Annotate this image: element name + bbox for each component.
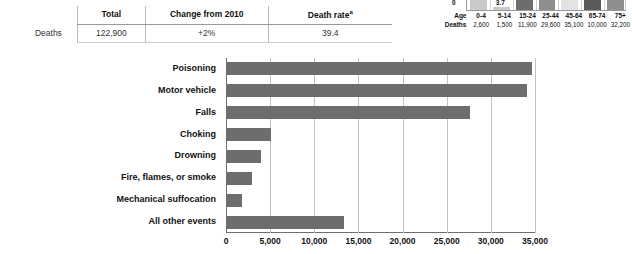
summary-value-change: +2% <box>145 24 268 42</box>
mini-chart-zero-label: 0 <box>452 0 456 6</box>
mini-bar-cell <box>513 0 536 10</box>
mini-bar <box>561 0 578 10</box>
mini-chart-deaths-value: 29,600 <box>539 20 562 29</box>
mini-chart-deaths-value: 35,100 <box>562 20 585 29</box>
mini-bar <box>516 0 533 10</box>
table-row <box>227 150 261 163</box>
category-label: Falls <box>195 108 216 117</box>
table-row <box>227 84 527 97</box>
mini-bar <box>607 0 624 10</box>
table-row <box>227 106 470 119</box>
category-label: All other events <box>148 217 216 226</box>
x-axis-tick-label: 35,000 <box>505 236 565 246</box>
mini-bar <box>470 0 487 10</box>
summary-header-total: Total <box>77 6 145 24</box>
mini-chart-age-label: 45-64 <box>562 11 585 20</box>
mini-chart-deaths-value: 10,000 <box>585 20 608 29</box>
mini-chart-gridline <box>536 0 537 10</box>
mini-chart-deaths-row: Deaths 2,6001,50011,90029,60035,10010,00… <box>440 20 632 29</box>
mini-chart-gridline <box>558 0 559 10</box>
table-row <box>227 128 271 141</box>
figure-root: Total Change from 2010 Death ratea Death… <box>0 0 632 254</box>
mini-chart-age-label: 15-24 <box>516 11 539 20</box>
mini-bar-cell <box>604 0 627 10</box>
bar-chart-plot-area <box>226 58 535 233</box>
mini-bar-cell <box>558 0 581 10</box>
table-row <box>227 62 532 75</box>
chart-gridline <box>535 58 536 233</box>
summary-table: Total Change from 2010 Death ratea Death… <box>20 6 392 43</box>
summary-value-total: 122,900 <box>77 24 145 42</box>
mini-bar <box>539 0 556 10</box>
chart-baseline <box>226 232 535 233</box>
mini-chart-deaths-value: 32,200 <box>609 20 632 29</box>
mini-chart-age-row-label: Age <box>440 11 469 20</box>
mini-chart-age-label: 65-74 <box>585 11 608 20</box>
mini-chart-age-label: 0-4 <box>469 11 492 20</box>
summary-row-label: Deaths <box>20 24 77 42</box>
age-group-mini-chart: 0 Age 0-45-1415-2425-4445-6465-7475+ Dea… <box>440 0 632 48</box>
table-row <box>227 172 252 185</box>
mini-bar-cell <box>467 0 490 10</box>
category-label: Choking <box>180 130 216 139</box>
mini-chart-deaths-value: 1,500 <box>493 20 516 29</box>
mini-chart-deaths-row-label: Deaths <box>440 20 469 29</box>
summary-header-death-rate: Death ratea <box>268 6 392 24</box>
category-label: Motor vehicle <box>158 86 216 95</box>
mini-chart-gridline <box>581 0 582 10</box>
mini-chart-age-label: 25-44 <box>539 11 562 20</box>
causes-bar-chart: PoisoningMotor vehicleFallsChokingDrowni… <box>0 58 632 254</box>
mini-chart-gridline <box>604 0 605 10</box>
mini-bar-value-label: 3.7 <box>489 0 512 6</box>
summary-header-change: Change from 2010 <box>145 6 268 24</box>
mini-chart-age-row: Age 0-45-1415-2425-4445-6465-7475+ <box>440 11 632 20</box>
summary-header-death-rate-text: Death rate <box>308 10 350 20</box>
mini-chart-table: Age 0-45-1415-2425-4445-6465-7475+ Death… <box>440 11 632 29</box>
mini-bar <box>584 0 601 10</box>
mini-chart-deaths-value: 2,600 <box>469 20 492 29</box>
summary-value-death-rate: 39.4 <box>268 24 392 42</box>
mini-bar-cell <box>536 0 559 10</box>
mini-bar-cell <box>581 0 604 10</box>
summary-header-row: Total Change from 2010 Death ratea <box>20 6 392 24</box>
category-label: Mechanical suffocation <box>116 195 216 204</box>
table-row <box>227 194 242 207</box>
mini-chart-label-rows: Age 0-45-1415-2425-4445-6465-7475+ Death… <box>440 11 632 29</box>
mini-chart-age-label: 5-14 <box>493 11 516 20</box>
mini-chart-age-label: 75+ <box>609 11 632 20</box>
category-label: Fire, flames, or smoke <box>121 173 216 182</box>
category-label: Drowning <box>175 151 217 160</box>
category-label: Poisoning <box>173 64 217 73</box>
mini-chart-deaths-value: 11,900 <box>516 20 539 29</box>
footnote-marker: a <box>349 9 352 15</box>
table-row <box>227 216 344 229</box>
summary-table-container: Total Change from 2010 Death ratea Death… <box>20 6 392 43</box>
summary-data-row: Deaths 122,900 +2% 39.4 <box>20 24 392 42</box>
mini-chart-gridline <box>513 0 514 10</box>
summary-corner-cell <box>20 6 77 24</box>
value-axis-ticks: 05,00010,00015,00020,00025,00030,00035,0… <box>0 234 632 252</box>
